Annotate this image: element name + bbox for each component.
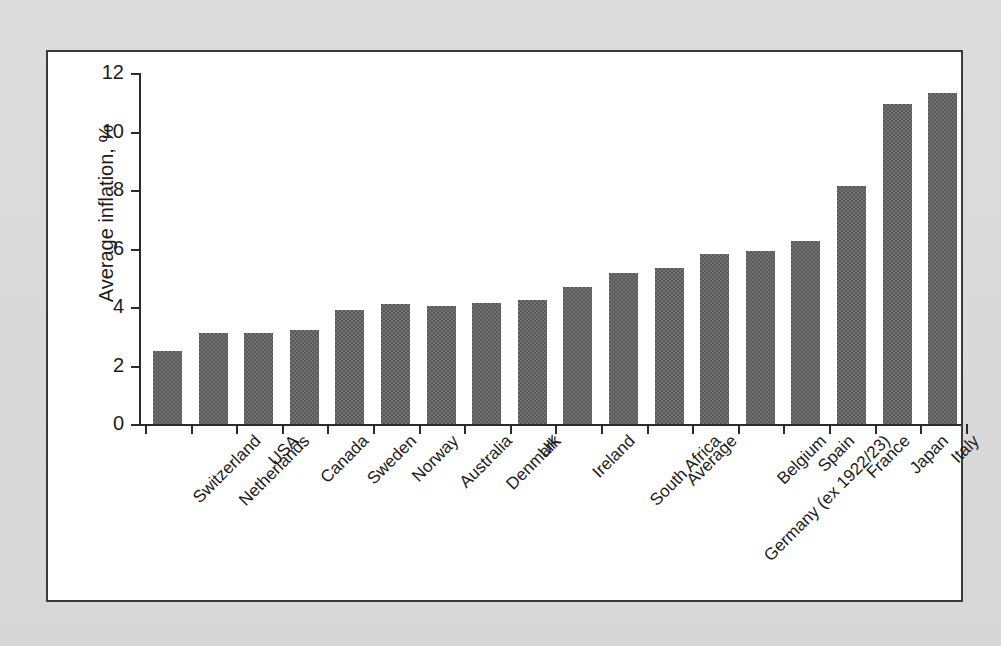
- x-tick-mark: [191, 424, 193, 434]
- x-tick-label: Canada: [318, 432, 373, 487]
- y-tick-mark: [131, 132, 140, 134]
- y-tick: 12: [48, 73, 140, 75]
- y-tick: 0: [48, 424, 140, 426]
- y-tick-mark: [131, 366, 140, 368]
- x-axis-line: [139, 424, 961, 426]
- x-tick-mark: [875, 424, 877, 434]
- y-tick: 6: [48, 249, 140, 251]
- bar: [199, 333, 228, 424]
- x-tick-label: Japan: [907, 432, 952, 477]
- y-tick-label: 4: [48, 296, 124, 316]
- bar: [427, 306, 456, 424]
- bar: [563, 287, 592, 424]
- x-tick-mark: [373, 424, 375, 434]
- bar: [518, 300, 547, 424]
- y-tick-label: 0: [48, 413, 124, 433]
- x-tick-mark: [236, 424, 238, 434]
- x-tick-label: Sweden: [364, 432, 420, 488]
- figure-root: Average inflation, % 024681012 Switzerla…: [0, 0, 1001, 646]
- x-tick-mark: [783, 424, 785, 434]
- x-tick-mark: [829, 424, 831, 434]
- x-tick-mark: [601, 424, 603, 434]
- bar: [335, 310, 364, 424]
- bar: [381, 304, 410, 424]
- bar: [883, 104, 912, 424]
- x-tick-mark: [738, 424, 740, 434]
- bar: [609, 273, 638, 424]
- bar: [746, 251, 775, 424]
- bar: [928, 93, 957, 424]
- plot-area: Average inflation, % 024681012 Switzerla…: [48, 52, 961, 600]
- x-tick-mark: [419, 424, 421, 434]
- bar: [837, 186, 866, 424]
- x-tick-label: Italy: [948, 432, 983, 467]
- y-tick-mark: [131, 307, 140, 309]
- y-tick-mark: [131, 249, 140, 251]
- y-tick-mark: [131, 190, 140, 192]
- bar: [472, 303, 501, 424]
- x-tick-mark: [510, 424, 512, 434]
- bar: [153, 351, 182, 424]
- y-tick: 8: [48, 190, 140, 192]
- x-tick-mark: [464, 424, 466, 434]
- x-tick-mark: [920, 424, 922, 434]
- y-tick-label: 10: [48, 121, 124, 141]
- x-tick-mark: [692, 424, 694, 434]
- y-tick-mark: [131, 73, 140, 75]
- y-tick-label: 8: [48, 179, 124, 199]
- x-tick-mark: [282, 424, 284, 434]
- y-tick-label: 12: [48, 62, 124, 82]
- x-tick-label: Ireland: [589, 432, 638, 481]
- bar: [700, 254, 729, 424]
- y-tick-label: 6: [48, 238, 124, 258]
- y-tick-label: 2: [48, 355, 124, 375]
- x-tick-mark: [327, 424, 329, 434]
- figure-frame: Average inflation, % 024681012 Switzerla…: [46, 50, 963, 602]
- bar: [655, 268, 684, 424]
- x-tick-mark: [555, 424, 557, 434]
- y-tick: 2: [48, 366, 140, 368]
- y-tick: 10: [48, 132, 140, 134]
- bar: [290, 330, 319, 424]
- y-tick: 4: [48, 307, 140, 309]
- x-tick-mark: [647, 424, 649, 434]
- x-tick-mark: [145, 424, 147, 434]
- bar: [244, 333, 273, 424]
- bar: [791, 241, 820, 424]
- y-tick-mark: [131, 424, 140, 426]
